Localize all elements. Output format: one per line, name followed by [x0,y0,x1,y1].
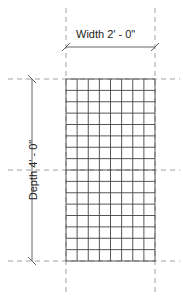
grid-pattern [66,79,155,261]
depth-dimension-label: Depth 4' - 0" [27,140,39,200]
width-dimension [62,43,159,51]
width-dimension-label: Width 2' - 0" [76,28,135,40]
